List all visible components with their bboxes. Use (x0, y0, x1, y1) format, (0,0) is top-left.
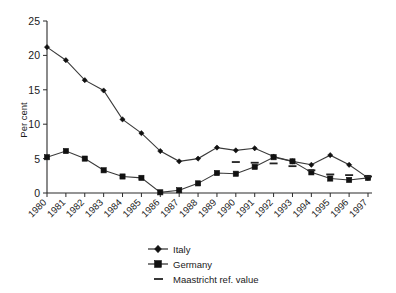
data-point-marker (347, 177, 352, 182)
legend-label: Italy (173, 244, 191, 255)
series-layer (44, 45, 372, 195)
square-marker-icon (155, 261, 162, 268)
x-tick-label: 1992 (252, 197, 275, 220)
data-point-marker (290, 159, 295, 164)
data-point-marker (158, 190, 163, 195)
legend-item-italy: Italy (148, 244, 191, 255)
y-tick-label: 25 (28, 15, 40, 27)
x-tick-label: 1997 (347, 197, 370, 220)
data-point-marker (101, 168, 106, 173)
x-tick-label: 1990 (215, 197, 238, 220)
data-point-marker (44, 155, 49, 160)
x-tick-label: 1984 (101, 197, 124, 220)
x-tick-label: 1988 (177, 197, 200, 220)
x-tick-label: 1995 (309, 197, 332, 220)
x-tick-label: 1996 (328, 197, 351, 220)
x-tick-label: 1986 (139, 197, 162, 220)
data-point-marker (195, 181, 200, 186)
series-line (47, 151, 368, 192)
data-point-marker (328, 176, 333, 181)
data-point-marker (271, 155, 276, 160)
x-tick-label: 1991 (233, 197, 256, 220)
legend-label: Germany (173, 259, 212, 270)
y-tick-label: 15 (28, 84, 40, 96)
x-tick-label: 1987 (158, 197, 181, 220)
data-point-marker (139, 175, 144, 180)
chart-figure: 25 20 15 10 5 0 Per cent 198019811982198… (0, 0, 396, 293)
legend-label: Maastricht ref. value (173, 274, 259, 285)
y-axis-title: Per cent (18, 102, 29, 138)
x-axis-ticks (47, 193, 368, 197)
x-axis-tick-labels: 1980198119821983198419851986198719881989… (26, 197, 370, 220)
data-point-marker (309, 162, 314, 167)
data-point-marker (214, 170, 219, 175)
data-point-marker (328, 153, 333, 158)
legend-item-maastricht: Maastricht ref. value (154, 274, 259, 285)
line-chart: 25 20 15 10 5 0 Per cent 198019811982198… (0, 0, 396, 293)
x-tick-label: 1994 (290, 197, 313, 220)
data-point-marker (120, 174, 125, 179)
series-italy (44, 45, 370, 181)
data-point-marker (82, 156, 87, 161)
x-tick-label: 1989 (196, 197, 219, 220)
diamond-marker-icon (155, 245, 162, 252)
data-point-marker (233, 148, 238, 153)
x-tick-label: 1982 (63, 197, 86, 220)
data-point-marker (252, 164, 257, 169)
x-tick-label: 1980 (26, 197, 49, 220)
series-germany (44, 148, 370, 194)
x-tick-label: 1983 (82, 197, 105, 220)
x-tick-label: 1981 (45, 197, 68, 220)
y-axis-tick-labels: 25 20 15 10 5 0 (28, 15, 40, 199)
chart-legend: Italy Germany Maastricht ref. value (148, 244, 259, 285)
y-tick-label: 20 (28, 49, 40, 61)
x-tick-label: 1985 (120, 197, 143, 220)
data-point-marker (214, 145, 219, 150)
y-tick-label: 5 (34, 153, 40, 165)
data-point-marker (252, 146, 257, 151)
data-point-marker (63, 148, 68, 153)
x-tick-label: 1993 (271, 197, 294, 220)
y-tick-label: 10 (28, 118, 40, 130)
data-point-marker (177, 188, 182, 193)
data-point-marker (195, 156, 200, 161)
data-point-marker (233, 171, 238, 176)
data-point-marker (177, 159, 182, 164)
legend-item-germany: Germany (148, 259, 212, 270)
series-line (47, 47, 368, 178)
